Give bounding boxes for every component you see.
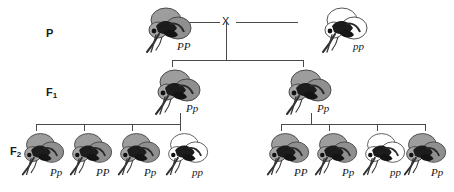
fly-f2-8: [402, 129, 454, 179]
fly-illustration-gray: [116, 129, 168, 179]
genotype-f2-5: PP: [294, 167, 307, 178]
fly-illustration-gray: [144, 4, 200, 56]
genotype-f2-2: PP: [96, 167, 109, 178]
genotype-f1-1: Pp: [186, 103, 198, 114]
fly-f2-1: [20, 129, 72, 179]
fly-f2-6: [313, 129, 365, 179]
genetics-cross-diagram: P F1 F2 X: [0, 0, 454, 192]
f1-bracket-horizontal: [172, 60, 304, 61]
genotype-f2-1: Pp: [50, 167, 62, 178]
generation-label-f1: F1: [46, 87, 57, 98]
fly-p-2: [320, 4, 376, 56]
fly-f2-2: [68, 129, 120, 179]
genotype-f2-6: Pp: [342, 167, 354, 178]
fly-f1-2: [284, 66, 340, 118]
fly-illustration-gray: [265, 129, 317, 179]
fly-p-1: [144, 4, 200, 56]
fly-illustration-gray: [68, 129, 120, 179]
fly-illustration-gray: [284, 66, 340, 118]
f2-left-bracket-horizontal: [36, 124, 180, 125]
fly-f2-3: [116, 129, 168, 179]
p-to-f1-drop-line: [226, 22, 227, 60]
fly-illustration-white: [320, 4, 376, 56]
fly-f1-1: [153, 66, 209, 118]
genotype-f1-2: Pp: [317, 103, 329, 114]
fly-illustration-white: [164, 129, 216, 179]
generation-label-p: P: [46, 28, 53, 39]
fly-illustration-gray: [313, 129, 365, 179]
genotype-f2-8: Pp: [431, 167, 443, 178]
fly-illustration-gray: [402, 129, 454, 179]
fly-f2-4: [164, 129, 216, 179]
fly-f2-5: [265, 129, 317, 179]
genotype-f2-7: pp: [390, 167, 401, 178]
p-cross-line-right: [236, 22, 298, 23]
fly-illustration-gray: [153, 66, 209, 118]
fly-illustration-gray: [20, 129, 72, 179]
genotype-f2-3: Pp: [144, 167, 156, 178]
genotype-p-1: PP: [177, 41, 190, 52]
genotype-f2-4: pp: [192, 167, 203, 178]
f2-right-bracket-horizontal: [281, 124, 425, 125]
genotype-p-2: pp: [353, 41, 364, 52]
